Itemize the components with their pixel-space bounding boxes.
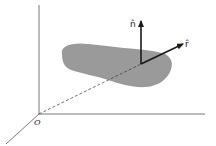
diagram-canvas: n̂ r̂ O [0,0,216,146]
normal-vector-label: n̂ [130,19,136,29]
origin-label: O [34,118,41,127]
radial-vector-label: r̂ [185,39,190,49]
surface-patch [62,43,172,87]
